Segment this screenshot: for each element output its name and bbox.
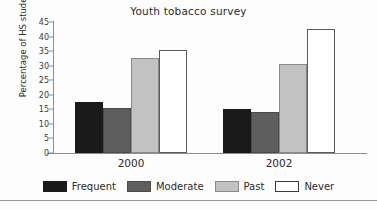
legend-label: Frequent (72, 181, 116, 192)
legend-item-frequent[interactable]: Frequent (43, 181, 116, 192)
legend-swatch-frequent-icon (43, 181, 67, 192)
bar-past-2002 (279, 64, 307, 153)
x-axis-line (47, 153, 367, 154)
legend-item-never[interactable]: Never (275, 181, 334, 192)
y-tick-mark (49, 80, 53, 81)
legend-label: Never (304, 181, 334, 192)
y-tick-label: 15 (39, 105, 49, 114)
legend-item-moderate[interactable]: Moderate (127, 181, 204, 192)
y-tick-label: 20 (39, 90, 49, 99)
y-tick-mark (49, 153, 53, 154)
legend-swatch-never-icon (275, 181, 299, 192)
y-tick-mark (49, 138, 53, 139)
legend-swatch-moderate-icon (127, 181, 151, 192)
y-tick-label: 35 (39, 47, 49, 56)
y-tick-mark (49, 51, 53, 52)
y-axis-label: Percentage of HS student (18, 0, 28, 113)
bar-past-2000 (131, 58, 159, 153)
bar-frequent-2000 (75, 102, 103, 153)
x-tick-label-2002: 2002 (249, 157, 309, 169)
bar-frequent-2002 (223, 109, 251, 153)
y-tick-mark (49, 123, 53, 124)
plot-area: 051015202530354045 (53, 22, 364, 153)
y-tick-label: 10 (39, 119, 49, 128)
y-tick-mark (49, 36, 53, 37)
legend-item-past[interactable]: Past (215, 181, 265, 192)
y-tick-label: 45 (39, 18, 49, 27)
y-tick-label: 30 (39, 61, 49, 70)
legend-label: Past (244, 181, 265, 192)
y-tick-mark (49, 22, 53, 23)
legend-swatch-past-icon (215, 181, 239, 192)
y-tick-mark (49, 109, 53, 110)
bar-group-2002 (223, 22, 335, 153)
y-tick-mark (49, 65, 53, 66)
bar-moderate-2002 (251, 112, 279, 153)
legend-label: Moderate (156, 181, 204, 192)
y-tick-label: 40 (39, 32, 49, 41)
bar-never-2000 (159, 50, 187, 153)
y-tick-mark (49, 94, 53, 95)
bottom-divider (0, 200, 377, 201)
chart-legend: FrequentModeratePastNever (0, 181, 377, 192)
x-tick-label-2000: 2000 (101, 157, 161, 169)
y-tick-label: 25 (39, 76, 49, 85)
bar-group-2000 (75, 22, 187, 153)
chart-title: Youth tobacco survey (0, 5, 377, 17)
bar-never-2002 (307, 29, 335, 153)
bar-moderate-2000 (103, 108, 131, 153)
chart-figure: Youth tobacco survey Percentage of HS st… (0, 0, 377, 209)
